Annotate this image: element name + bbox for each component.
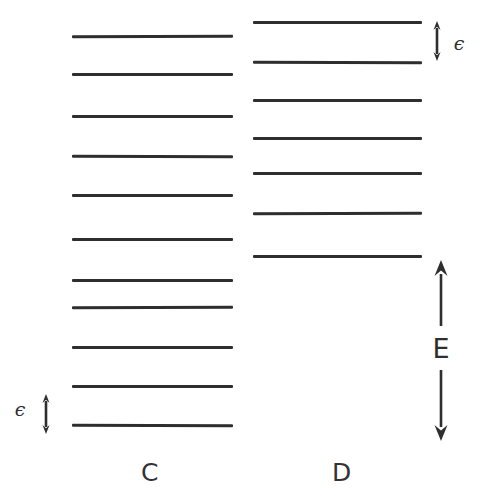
energy-level-c — [72, 114, 233, 117]
energy-level-c — [72, 34, 233, 37]
energy-level-c — [72, 193, 233, 196]
energy-level-d — [253, 60, 422, 63]
energy-level-c — [72, 72, 233, 75]
arrowhead-up — [435, 260, 448, 276]
column-label-c: C — [141, 460, 159, 485]
energy-level-c — [72, 423, 233, 426]
double-arrow-epsilon-bottom-left — [31, 394, 61, 434]
energy-level-d — [253, 98, 422, 101]
energy-level-c — [72, 154, 233, 157]
arrowhead-down — [435, 425, 448, 441]
energy-level-c — [72, 305, 233, 308]
energy-level-diagram: C D ϵϵE — [0, 0, 480, 498]
energy-level-d — [253, 20, 422, 23]
annotation-label-epsilon-bottom-left: ϵ — [15, 400, 26, 419]
energy-level-c — [72, 345, 233, 348]
energy-level-c — [72, 384, 233, 387]
double-arrow-epsilon-top-right — [422, 21, 452, 61]
annotation-label-epsilon-top-right: ϵ — [454, 34, 465, 53]
energy-level-d — [253, 171, 422, 174]
energy-level-c — [72, 278, 233, 281]
energy-level-c — [72, 238, 233, 241]
energy-level-d — [253, 211, 422, 214]
annotation-label-energy-gap: E — [432, 335, 449, 362]
energy-level-d — [253, 137, 422, 140]
energy-level-d — [253, 254, 422, 257]
column-label-d: D — [332, 460, 352, 485]
